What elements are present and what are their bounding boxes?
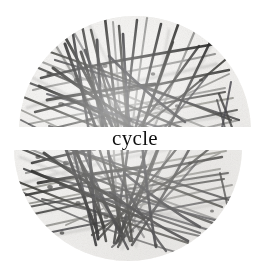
bottom-micrograph xyxy=(14,150,242,261)
top-fibril-network xyxy=(19,16,251,127)
top-panel-clip xyxy=(0,0,270,127)
caption-band: cycle xyxy=(0,127,270,150)
figure-caption: cycle xyxy=(112,127,158,150)
bottom-fibril-network xyxy=(14,150,242,261)
top-micrograph xyxy=(19,16,251,127)
figure-panel: cycle xyxy=(0,0,270,277)
bottom-panel-clip xyxy=(0,150,270,277)
